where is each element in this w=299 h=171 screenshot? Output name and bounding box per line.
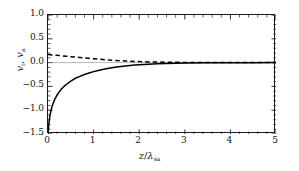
y-tick-label: 1.0	[30, 9, 44, 18]
x-tick-label: 3	[174, 136, 194, 145]
y-tick-label: 0.0	[30, 57, 44, 66]
x-tick-label: 1	[83, 136, 103, 145]
x-tick-label: 0	[37, 136, 57, 145]
x-axis-title: z/λsa	[0, 150, 299, 162]
x-tick-label: 4	[219, 136, 239, 145]
series-line-va	[48, 55, 276, 63]
y-axis-title-sub1: i	[19, 64, 26, 66]
y-axis-title: vi, va	[14, 10, 26, 110]
x-axis-tick-labels: 012345	[0, 136, 299, 150]
plot-canvas	[48, 15, 276, 134]
minor-tick-marks	[48, 15, 276, 134]
major-tick-marks	[48, 15, 276, 134]
y-axis-title-v2: v	[14, 52, 25, 58]
chart-figure: 1.00.50.0−0.5−1.0−1.5 012345 z/λsa vi, v…	[0, 0, 299, 171]
x-axis-title-subscript: sa	[154, 155, 161, 162]
y-tick-label: 0.5	[30, 33, 44, 42]
series-line-vi	[48, 63, 276, 134]
x-tick-label: 2	[128, 136, 148, 145]
plot-frame	[47, 14, 275, 133]
y-axis-title-comma: ,	[14, 58, 25, 64]
x-tick-label: 5	[265, 136, 285, 145]
y-axis-title-sub2: a	[19, 48, 26, 52]
y-axis-title-v1: v	[14, 66, 25, 72]
